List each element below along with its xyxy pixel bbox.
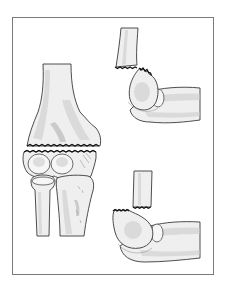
anterior-view: [23, 64, 101, 236]
lateral-view-displaced: [115, 28, 200, 123]
humerus-shaft: [133, 171, 152, 207]
lateral-view-aligned: [113, 171, 200, 262]
ulna: [56, 175, 93, 236]
elbow-fracture-illustration: [0, 0, 229, 292]
